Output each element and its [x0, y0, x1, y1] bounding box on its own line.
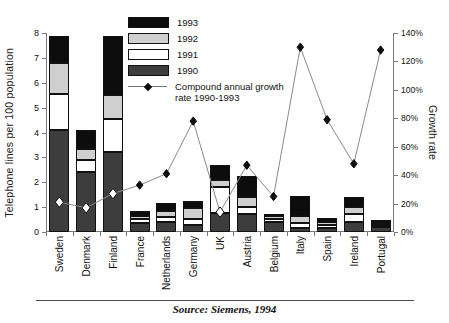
y-tick-label-right: 60% [401, 142, 418, 152]
x-axis-label-text: Finland [107, 236, 118, 269]
x-axis-label-text: Italy [295, 236, 306, 254]
x-axis-label-text: France [134, 236, 145, 267]
y-tick-label-left: 5 [34, 103, 39, 113]
y-axis-title-left-text: Telephone lines per 100 population [3, 48, 15, 218]
y-tick-label-left: 2 [34, 177, 39, 187]
legend-swatch-1990 [128, 65, 169, 76]
x-axis-label-france: France [134, 236, 145, 294]
growth-rate-marker [163, 170, 170, 178]
y-tick-label-left: 6 [34, 78, 39, 88]
legend-item-1993: 1993 [128, 16, 308, 29]
legend-label-growth-line1: Compound annual growth [175, 81, 284, 92]
chart-legend: 1993 1992 1991 1990 Compound annual grow… [128, 16, 308, 103]
legend-label-1990: 1990 [177, 65, 198, 76]
y-tick-right [394, 61, 398, 62]
x-axis-label-text: Sweden [54, 236, 65, 272]
legend-item-1991: 1991 [128, 48, 308, 61]
growth-rate-marker [190, 117, 197, 125]
y-tick-label-left: 0 [34, 227, 39, 237]
legend-label-1991: 1991 [177, 49, 198, 60]
chart-figure: Telephone lines per 100 population Growt… [0, 0, 449, 323]
legend-item-growth-rate: Compound annual growth rate 1990-1993 [128, 81, 308, 103]
x-axis-label-uk: UK [215, 236, 226, 294]
legend-item-1992: 1992 [128, 32, 308, 45]
y-tick-label-right: 140% [401, 28, 423, 38]
growth-rate-marker [55, 197, 63, 207]
x-axis-label-sweden: Sweden [54, 236, 65, 294]
y-tick-label-right: 0% [401, 227, 413, 237]
y-tick-label-right: 40% [401, 170, 418, 180]
legend-label-1993: 1993 [177, 17, 198, 28]
x-axis-label-text: Portugal [375, 236, 386, 273]
x-axis-label-text: UK [215, 236, 226, 250]
legend-label-growth-rate: Compound annual growth rate 1990-1993 [175, 81, 284, 103]
x-axis-label-netherlands: Netherlands [161, 236, 172, 294]
source-caption: Source: Siemens, 1994 [0, 303, 449, 315]
y-tick-right [394, 147, 398, 148]
legend-label-1992: 1992 [177, 33, 198, 44]
y-axis-title-right: Growth rate [425, 33, 441, 232]
growth-rate-marker [109, 188, 117, 198]
x-axis-label-portugal: Portugal [375, 236, 386, 294]
y-tick-right [394, 118, 398, 119]
growth-rate-marker [136, 181, 143, 189]
legend-diamond-marker-icon [128, 81, 167, 92]
y-tick-label-right: 80% [401, 113, 418, 123]
x-axis-label-text: Belgium [268, 236, 279, 272]
legend-swatch-1993 [128, 17, 169, 28]
y-axis-title-right-text: Growth rate [427, 105, 439, 160]
x-axis-label-belgium: Belgium [268, 236, 279, 294]
x-axis-label-text: Ireland [348, 236, 359, 267]
x-axis-label-text: Austria [241, 236, 252, 267]
legend-swatch-1992 [128, 33, 169, 44]
y-tick-right [394, 90, 398, 91]
source-divider [36, 300, 414, 301]
x-axis-label-text: Netherlands [161, 236, 172, 290]
x-axis-label-germany: Germany [188, 236, 199, 294]
growth-rate-marker [216, 207, 224, 217]
y-tick-label-left: 7 [34, 53, 39, 63]
x-axis-label-ireland: Ireland [348, 236, 359, 294]
y-tick-right [394, 175, 398, 176]
growth-rate-marker [82, 203, 90, 213]
x-axis-label-austria: Austria [241, 236, 252, 294]
y-tick-label-right: 120% [401, 56, 423, 66]
x-axis-category-labels: SwedenDenmarkFinlandFranceNetherlandsGer… [46, 236, 394, 294]
growth-rate-marker [377, 46, 384, 54]
x-axis-label-text: Spain [322, 236, 333, 262]
x-axis-label-text: Denmark [81, 236, 92, 277]
y-tick-right [394, 33, 398, 34]
y-tick-label-left: 3 [34, 152, 39, 162]
y-axis-title-left: Telephone lines per 100 population [2, 33, 16, 232]
x-axis-label-finland: Finland [107, 236, 118, 294]
y-tick-label-right: 100% [401, 85, 423, 95]
y-tick-label-left: 4 [34, 128, 39, 138]
x-axis-label-text: Germany [188, 236, 199, 277]
legend-swatch-1991 [128, 49, 169, 60]
y-tick-label-left: 8 [34, 28, 39, 38]
x-axis-label-denmark: Denmark [81, 236, 92, 294]
x-tick [394, 232, 395, 236]
y-tick-label-left: 1 [34, 202, 39, 212]
x-axis-label-spain: Spain [322, 236, 333, 294]
legend-item-1990: 1990 [128, 64, 308, 77]
y-tick-label-right: 20% [401, 199, 418, 209]
y-tick-right [394, 204, 398, 205]
legend-label-growth-line2: rate 1990-1993 [175, 92, 284, 103]
x-axis-label-italy: Italy [295, 236, 306, 294]
